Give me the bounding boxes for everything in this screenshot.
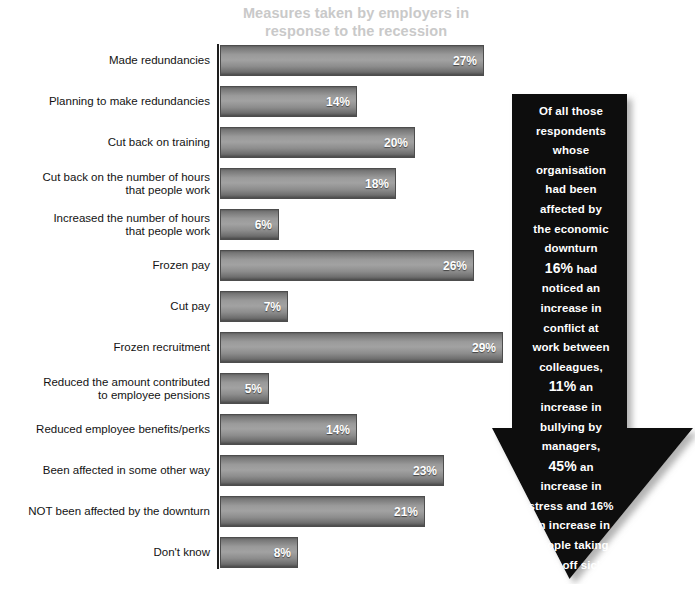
callout-line: 45% an — [516, 457, 626, 478]
bar: 23% — [220, 455, 444, 486]
callout-stat: 16% — [545, 260, 573, 276]
callout-line: organisation — [516, 161, 626, 181]
bar-value-label: 14% — [326, 95, 350, 109]
callout-line: colleagues, — [516, 358, 626, 378]
bar-value-label: 5% — [245, 382, 262, 396]
bar-category-label: Planning to make redundancies — [0, 95, 210, 109]
bar-category-label: Cut back on the number of hoursthat peop… — [0, 170, 210, 197]
chart-title-line2: response to the recession — [265, 23, 447, 39]
callout-line: people taking — [516, 536, 626, 556]
bar-value-label: 18% — [365, 177, 389, 191]
bar-value-label: 27% — [453, 54, 477, 68]
bar: 8% — [220, 537, 298, 568]
bar-category-label: Frozen recruitment — [0, 341, 210, 355]
callout-arrow: Of all thoserespondentswhoseorganisation… — [490, 92, 695, 584]
callout-stat: 45% — [548, 458, 576, 474]
bar-category-label: Increased the number of hoursthat people… — [0, 211, 210, 238]
bar: 21% — [220, 496, 425, 527]
callout-line: increase in — [516, 398, 626, 418]
bar: 14% — [220, 414, 357, 445]
callout-stat: 11% — [549, 378, 577, 394]
bar-category-label: NOT been affected by the downturn — [0, 505, 210, 519]
bar-row: Made redundancies27% — [0, 45, 695, 76]
bar: 6% — [220, 209, 279, 240]
bar-category-label: Frozen pay — [0, 259, 210, 273]
bar-value-label: 21% — [394, 505, 418, 519]
callout-line: downturn — [516, 239, 626, 259]
callout-line: bullying by — [516, 418, 626, 438]
callout-line: 11% an — [516, 377, 626, 398]
bar-value-label: 26% — [443, 259, 467, 273]
bar: 7% — [220, 291, 288, 322]
chart-canvas: Measures taken by employers in response … — [0, 0, 695, 592]
bar-category-label: Don't know — [0, 546, 210, 560]
bar: 26% — [220, 250, 474, 281]
callout-line: increase in — [516, 477, 626, 497]
bar-category-label: Cut back on training — [0, 136, 210, 150]
chart-title: Measures taken by employers in response … — [222, 4, 490, 40]
bar-value-label: 14% — [326, 423, 350, 437]
bar: 14% — [220, 86, 357, 117]
bar: 20% — [220, 127, 415, 158]
bar-value-label: 20% — [384, 136, 408, 150]
callout-line: conflict at — [516, 319, 626, 339]
callout-line: time off sick. — [516, 556, 626, 576]
callout-line: increase in — [516, 299, 626, 319]
bar-value-label: 23% — [413, 464, 437, 478]
callout-line: an increase in — [516, 516, 626, 536]
bar: 18% — [220, 168, 396, 199]
bar: 5% — [220, 373, 269, 404]
bar-category-label: Reduced the amount contributedto employe… — [0, 375, 210, 402]
callout-line: Of all those — [516, 102, 626, 122]
callout-line: managers, — [516, 437, 626, 457]
callout-line: affected by — [516, 200, 626, 220]
callout-line: respondents — [516, 122, 626, 142]
bar-category-label: Cut pay — [0, 300, 210, 314]
chart-title-line1: Measures taken by employers in — [243, 5, 469, 21]
bar: 29% — [220, 332, 503, 363]
bar-value-label: 7% — [264, 300, 281, 314]
callout-line: had been — [516, 180, 626, 200]
callout-line: whose — [516, 141, 626, 161]
callout-line: the economic — [516, 220, 626, 240]
callout-line: 16% had — [516, 259, 626, 280]
bar-category-label: Been affected in some other way — [0, 464, 210, 478]
callout-line: work between — [516, 338, 626, 358]
callout-line: stress and 16% — [516, 497, 626, 517]
callout-text: Of all thoserespondentswhoseorganisation… — [516, 102, 626, 575]
bar-category-label: Reduced employee benefits/perks — [0, 423, 210, 437]
bar-value-label: 8% — [274, 546, 291, 560]
bar: 27% — [220, 45, 484, 76]
callout-line: noticed an — [516, 279, 626, 299]
bar-value-label: 6% — [255, 218, 272, 232]
bar-category-label: Made redundancies — [0, 54, 210, 68]
